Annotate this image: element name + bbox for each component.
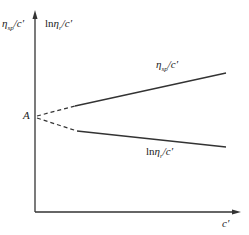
upper-line-extrapolation	[37, 106, 75, 116]
upper-line	[75, 73, 226, 106]
x-axis	[35, 210, 241, 215]
upper-line-label: ηsp/c′	[156, 58, 178, 73]
lower-line-extrapolation	[37, 118, 77, 131]
x-axis-label: c′	[222, 217, 229, 229]
y-axis-label-right: lnηr/c′	[45, 17, 72, 32]
lower-line-label: lnηr/c′	[146, 145, 173, 160]
y-axis-label-left: ηsp/c′	[2, 17, 24, 32]
y-axis	[33, 10, 38, 212]
intercept-label: A	[23, 109, 30, 121]
diagram-canvas	[0, 0, 249, 235]
